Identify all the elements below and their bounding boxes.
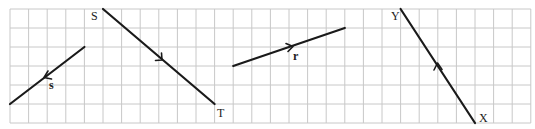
point-x-label: X [479, 111, 488, 125]
vector-grid-diagram: s S T r X Y [0, 0, 535, 129]
point-s-label: S [91, 9, 98, 23]
vector-s-label: s [49, 78, 54, 92]
vector-st: S T [91, 9, 225, 120]
point-y-label: Y [391, 9, 400, 23]
vector-r-label: r [293, 49, 299, 63]
vector-xy: X Y [391, 9, 488, 125]
square-grid [10, 9, 531, 123]
point-t-label: T [217, 106, 225, 120]
